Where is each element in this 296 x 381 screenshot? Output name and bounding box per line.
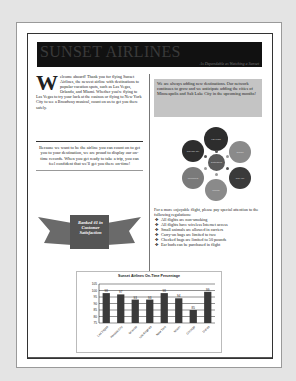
document-page: SUNSET AIRLINES As Dependable as Watchin… — [16, 22, 282, 368]
svg-text:99: 99 — [206, 288, 210, 292]
list-item-text: Ear buds can be purchased in flight — [161, 242, 220, 247]
svg-text:Orlando: Orlando — [128, 325, 139, 336]
diagram-node-new-york: New York — [229, 167, 251, 189]
svg-text:105: 105 — [92, 282, 98, 286]
diagram-center-node: Destinations — [208, 154, 225, 171]
svg-text:93: 93 — [148, 296, 152, 300]
connector-dot — [215, 150, 218, 153]
diagram-node-orlando: Orlando — [229, 141, 251, 163]
bullet-icon: ✤ — [155, 242, 158, 247]
on-time-chart: Sunset Airlines On-Time Percentage 75808… — [76, 271, 222, 353]
connector-dot — [226, 155, 229, 158]
svg-text:Los Angeles: Los Angeles — [138, 325, 153, 340]
diagram-node-minneapolis: Minneapolis — [182, 167, 204, 189]
svg-text:93: 93 — [134, 296, 138, 300]
svg-text:94: 94 — [177, 294, 181, 298]
svg-text:98: 98 — [105, 289, 109, 293]
svg-text:85: 85 — [93, 308, 97, 312]
svg-text:90: 90 — [93, 302, 97, 306]
svg-text:Las Vegas: Las Vegas — [96, 325, 109, 338]
svg-text:75: 75 — [93, 321, 97, 325]
newsletter-title: SUNSET AIRLINES — [40, 43, 181, 61]
masthead-banner: SUNSET AIRLINES As Dependable as Watchin… — [37, 42, 262, 67]
ribbon-label: Ranked #1 in Customer Satisfaction — [72, 220, 109, 236]
svg-text:100: 100 — [92, 289, 98, 293]
diagram-node-chicago: Chicago — [205, 179, 227, 201]
on-time-callout: Because we want to be the airline you ca… — [36, 141, 143, 171]
diagram-node-salt-lake-city: Salt Lake City — [182, 140, 204, 162]
page-border: SUNSET AIRLINES As Dependable as Watchin… — [27, 33, 273, 359]
svg-text:Chicago: Chicago — [185, 325, 196, 336]
regulations-list: ✤All flights are non-smoking ✤All flight… — [154, 217, 264, 247]
svg-text:Kansas City: Kansas City — [109, 325, 124, 340]
ranking-ribbon: Ranked #1 in Customer Satisfaction — [36, 209, 143, 254]
connector-dot — [226, 167, 229, 170]
diagram-node-las-vegas: Las Vegas — [204, 127, 228, 151]
svg-text:85: 85 — [192, 306, 196, 310]
bar-chart-plot: 758085909510010598Las Vegas97Kansas City… — [77, 272, 221, 352]
bottom-rule — [28, 357, 272, 358]
connector-dot — [204, 167, 207, 170]
svg-text:Dallas: Dallas — [202, 325, 211, 334]
svg-text:Miami: Miami — [173, 325, 182, 334]
welcome-paragraph: W elcome aboard! Thank you for flying Su… — [36, 74, 144, 110]
regulations-intro: For a more enjoyable flight, please pay … — [154, 207, 264, 217]
svg-text:New York: New York — [155, 325, 167, 337]
connector-dot — [204, 155, 207, 158]
svg-text:97: 97 — [119, 290, 123, 294]
destinations-diagram: Las Vegas Orlando New York Chicago Minne… — [182, 127, 254, 199]
svg-text:80: 80 — [93, 315, 97, 319]
column-divider — [149, 74, 150, 274]
svg-text:98: 98 — [163, 289, 167, 293]
regulations-section: For a more enjoyable flight, please pay … — [154, 207, 264, 247]
list-item: ✤Ear buds can be purchased in flight — [154, 242, 264, 247]
svg-text:95: 95 — [93, 295, 97, 299]
drop-cap: W — [36, 74, 58, 91]
newsletter-tagline: As Dependable as Watching a Sunset — [200, 61, 259, 66]
new-destinations-callout: We are always adding new destinations. O… — [154, 79, 262, 117]
connector-dot — [215, 173, 218, 176]
